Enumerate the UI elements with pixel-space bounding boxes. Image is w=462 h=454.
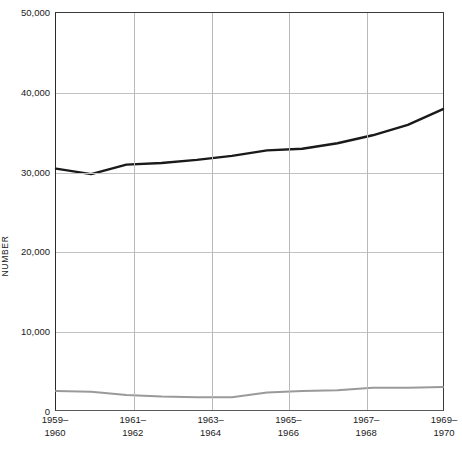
series-lines [56, 13, 443, 410]
y-tick-label: 20,000 [0, 246, 54, 257]
x-tick-label: 1961–1962 [98, 414, 168, 439]
series-line-lower-series [56, 387, 443, 397]
horizontal-gridline [56, 252, 443, 253]
x-tick-label: 1959–1960 [20, 414, 90, 439]
x-tick-label: 1967–1968 [331, 414, 401, 439]
vertical-gridline [289, 13, 290, 410]
horizontal-gridline [56, 332, 443, 333]
y-tick-label: 50,000 [0, 7, 54, 18]
x-tick-label: 1965–1966 [253, 414, 323, 439]
series-line-upper-series [56, 109, 443, 174]
y-axis-tick-labels: 010,00020,00030,00040,00050,000 [0, 0, 54, 454]
x-axis-tick-labels: 1959–19601961–19621963–19641965–19661967… [55, 414, 444, 454]
y-tick-label: 10,000 [0, 326, 54, 337]
horizontal-gridline [56, 93, 443, 94]
vertical-gridline [134, 13, 135, 410]
y-tick-label: 30,000 [0, 166, 54, 177]
plot-area [55, 12, 444, 411]
horizontal-gridline [56, 173, 443, 174]
vertical-gridline [212, 13, 213, 410]
y-tick-label: 40,000 [0, 86, 54, 97]
x-tick-label: 1969–1970 [409, 414, 462, 439]
vertical-gridline [367, 13, 368, 410]
x-tick-label: 1963–1964 [176, 414, 246, 439]
